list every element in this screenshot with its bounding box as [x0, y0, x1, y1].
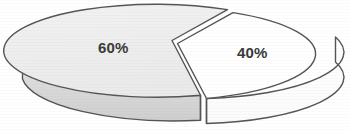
pie-chart-svg [0, 0, 350, 132]
pie-slice-40 [178, 13, 344, 124]
pie-label-40: 40% [237, 44, 268, 61]
pie-chart: 60% 40% [0, 0, 350, 132]
pie-label-60: 60% [98, 39, 129, 56]
